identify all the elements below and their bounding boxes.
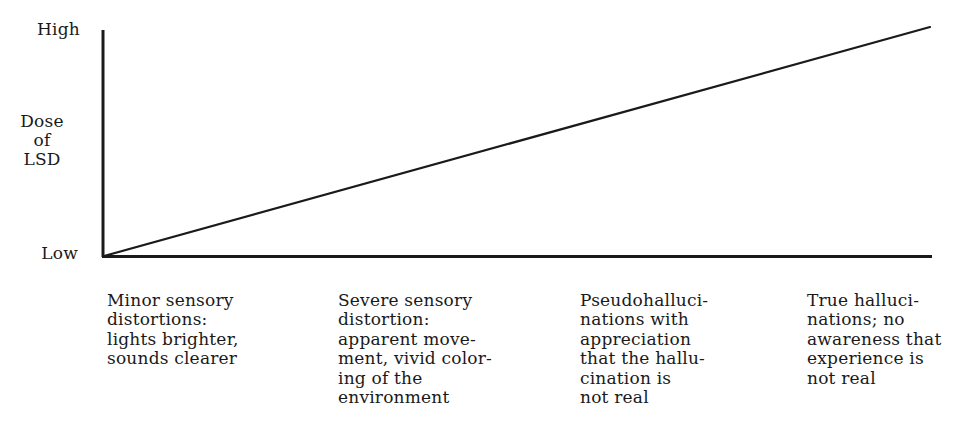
category-label-true-hallucinations: True halluci- nations; no awareness that…: [807, 291, 941, 388]
y-axis-title-line: of: [2, 131, 82, 150]
y-axis-title-line: Dose: [2, 112, 82, 131]
dose-line: [104, 27, 930, 256]
category-label-severe-distortion: Severe sensory distortion: apparent move…: [338, 291, 492, 407]
y-axis-title: Dose of LSD: [2, 112, 82, 169]
y-tick-low: Low: [20, 244, 78, 263]
y-tick-high: High: [20, 20, 80, 39]
category-label-minor-distortions: Minor sensory distortions: lights bright…: [107, 291, 239, 369]
y-axis-title-line: LSD: [2, 150, 82, 169]
category-label-pseudohallucinations: Pseudohalluci- nations with appreciation…: [580, 291, 708, 407]
